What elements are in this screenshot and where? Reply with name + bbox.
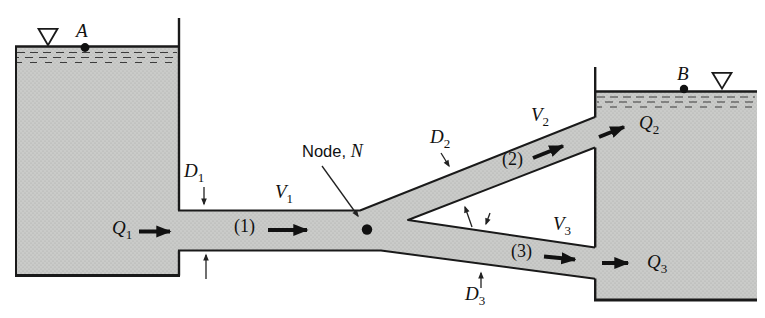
label-node-n: Node, N	[302, 141, 363, 160]
right-reservoir-water	[595, 92, 757, 300]
label-point-a: A	[76, 21, 88, 40]
label-q3: Q3	[647, 252, 667, 275]
label-d3: D3	[465, 284, 485, 307]
label-v3: V3	[553, 214, 571, 237]
label-pipe2: (2)	[502, 150, 523, 168]
label-q2: Q2	[639, 113, 659, 136]
label-d1: D1	[184, 161, 204, 184]
d2-pointer-arrow	[441, 153, 449, 166]
left-reservoir-water	[15, 47, 179, 276]
water-surface-symbol-left	[39, 29, 58, 46]
label-v2: V2	[531, 105, 549, 128]
label-d2: D2	[430, 127, 450, 150]
pipe-network-diagram: A B Q1 D1 V1 (1) Node, N D2 V2 (2) Q2 V3…	[0, 0, 765, 318]
d2-inner-arrow	[465, 207, 472, 227]
point-b-dot	[680, 85, 688, 93]
d3-upper-arrow	[486, 213, 490, 224]
label-pipe3: (3)	[511, 242, 532, 260]
label-point-b: B	[677, 64, 689, 83]
label-q1: Q1	[112, 218, 132, 241]
label-v1: V1	[275, 182, 293, 205]
node-pointer-arrow	[322, 166, 358, 216]
label-pipe1: (1)	[234, 217, 255, 235]
node-n-dot	[362, 224, 372, 234]
water-surface-symbol-right	[713, 73, 732, 89]
point-a-dot	[81, 43, 90, 52]
